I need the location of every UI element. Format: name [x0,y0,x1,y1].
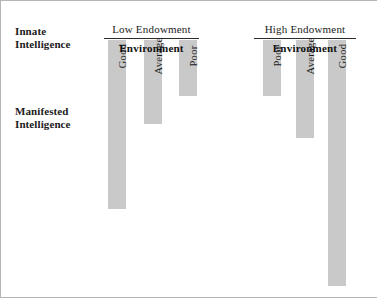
bar-high-good: Good [328,40,346,286]
bar-low-good: Good [108,40,126,209]
environment-label-low-endowment: Environment [104,42,199,54]
group-rule-low-endowment [104,38,199,39]
manifested-intelligence-label: Manifested Intelligence [15,105,71,130]
bar-high-average: Average [296,40,314,138]
group-header-high-endowment: High Endowment [254,23,356,35]
innate-intelligence-label: Innate Intelligence [15,25,71,50]
environment-label-high-endowment: Environment [254,42,356,54]
intelligence-endowment-diagram: Innate Intelligence Manifested Intellige… [0,0,377,298]
group-header-low-endowment: Low Endowment [104,23,199,35]
